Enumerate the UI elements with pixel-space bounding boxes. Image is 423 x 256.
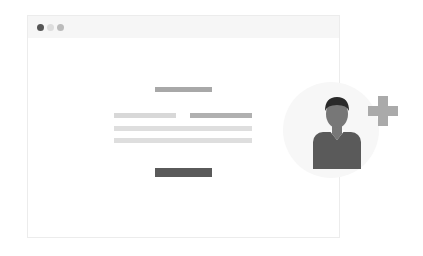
window-close-dot xyxy=(37,24,44,31)
button-placeholder xyxy=(155,168,212,177)
window-maximize-dot xyxy=(57,24,64,31)
label-placeholder-dark xyxy=(190,113,252,118)
window-titlebar xyxy=(28,16,339,38)
label-placeholder-light xyxy=(114,113,176,118)
window-minimize-dot xyxy=(47,24,54,31)
heading-placeholder xyxy=(155,87,212,92)
text-line-placeholder xyxy=(114,138,252,143)
text-line-placeholder xyxy=(114,126,252,131)
user-icon xyxy=(310,94,364,170)
